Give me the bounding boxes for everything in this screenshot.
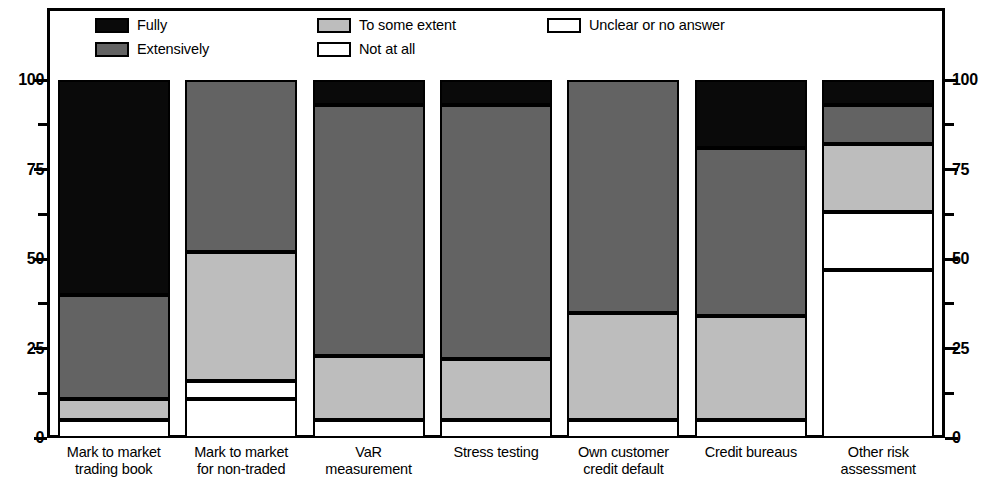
bar-segment-some	[695, 316, 807, 420]
x-axis-label-line: VaR	[305, 444, 432, 461]
x-axis-label-1: Mark to markettrading book	[50, 444, 177, 478]
axis-tick-minor	[945, 392, 954, 395]
x-axis-label-line: for non-traded	[177, 461, 304, 478]
legend-swatch-icon	[95, 18, 129, 33]
bar-segment-fully	[822, 80, 934, 105]
x-axis-label-7: Other riskassessment	[815, 444, 942, 478]
bar-segment-extensive	[185, 80, 297, 252]
axis-tick-minor	[945, 302, 954, 305]
y-axis-tick-label: 25	[952, 341, 985, 357]
bar-segment-notatall	[822, 270, 934, 438]
bar-segment-extensive	[440, 105, 552, 359]
bar-segment-fully	[695, 80, 807, 148]
bar-segment-extensive	[313, 105, 425, 356]
x-axis-label-line: assessment	[815, 461, 942, 478]
bar-3	[313, 80, 425, 438]
legend-label: Extensively	[137, 42, 209, 57]
x-axis-label-5: Own customercredit default	[560, 444, 687, 478]
bar-4	[440, 80, 552, 438]
bar-segment-notatall	[440, 420, 552, 438]
y-axis-tick-label: 75	[952, 162, 985, 178]
legend-swatch-icon	[317, 18, 351, 33]
bar-segment-notatall	[313, 420, 425, 438]
bar-segment-some	[822, 144, 934, 212]
legend-swatch-icon	[547, 18, 581, 33]
y-axis-tick-label: 100	[952, 72, 985, 88]
bar-segment-notatall	[567, 420, 679, 438]
legend-item[interactable]: Fully	[95, 18, 167, 33]
bar-1	[58, 80, 170, 438]
legend-label: Fully	[137, 18, 167, 33]
legend-swatch-icon	[317, 42, 351, 57]
legend-swatch-icon	[95, 42, 129, 57]
x-axis-label-line: Mark to market	[177, 444, 304, 461]
bar-segment-some	[440, 359, 552, 420]
bar-segment-some	[567, 313, 679, 420]
bar-segment-notatall	[695, 420, 807, 438]
x-axis-label-line: trading book	[50, 461, 177, 478]
axis-tick-minor	[945, 213, 954, 216]
x-axis-label-line: Stress testing	[432, 444, 559, 461]
bar-segment-fully	[58, 80, 170, 295]
bars-layer	[0, 0, 985, 486]
x-axis-label-line: Own customer	[560, 444, 687, 461]
x-axis-label-line: Mark to market	[50, 444, 177, 461]
bar-segment-some	[313, 356, 425, 420]
legend-row: FullyTo some extentUnclear or no answer	[95, 14, 735, 36]
chart-legend: FullyTo some extentUnclear or no answerE…	[95, 14, 735, 62]
chart-figure: 0255075100 FullyTo some extentUnclear or…	[0, 0, 985, 486]
x-axis-label-6: Credit bureaus	[687, 444, 814, 461]
legend-label: To some extent	[359, 18, 456, 33]
bar-segment-some	[185, 252, 297, 381]
y-axis-right: 0255075100	[952, 0, 985, 486]
x-axis-labels: Mark to markettrading bookMark to market…	[0, 444, 985, 486]
bar-segment-extensive	[567, 80, 679, 313]
bar-segment-notatall	[58, 420, 170, 438]
legend-row: ExtensivelyNot at all	[95, 38, 735, 60]
bar-segment-unclear	[822, 212, 934, 269]
legend-label: Not at all	[359, 42, 415, 57]
legend-label: Unclear or no answer	[589, 18, 725, 33]
bar-6	[695, 80, 807, 438]
bar-5	[567, 80, 679, 438]
bar-segment-fully	[440, 80, 552, 105]
x-axis-label-4: Stress testing	[432, 444, 559, 461]
x-axis-label-line: Credit bureaus	[687, 444, 814, 461]
x-axis-label-line: Other risk	[815, 444, 942, 461]
bar-segment-fully	[313, 80, 425, 105]
bar-2	[185, 80, 297, 438]
legend-item[interactable]: Unclear or no answer	[547, 18, 725, 33]
x-axis-label-3: VaRmeasurement	[305, 444, 432, 478]
bar-segment-unclear	[185, 381, 297, 399]
bar-segment-extensive	[695, 148, 807, 316]
legend-item[interactable]: Not at all	[317, 42, 415, 57]
bar-segment-extensive	[58, 295, 170, 399]
x-axis-label-2: Mark to marketfor non-traded	[177, 444, 304, 478]
legend-item[interactable]: To some extent	[317, 18, 456, 33]
bar-segment-extensive	[822, 105, 934, 144]
bar-segment-notatall	[185, 399, 297, 438]
x-axis-label-line: credit default	[560, 461, 687, 478]
axis-tick-minor	[945, 123, 954, 126]
bar-7	[822, 80, 934, 438]
bar-segment-some	[58, 399, 170, 420]
legend-item[interactable]: Extensively	[95, 42, 209, 57]
y-axis-tick-label: 50	[952, 251, 985, 267]
x-axis-label-line: measurement	[305, 461, 432, 478]
